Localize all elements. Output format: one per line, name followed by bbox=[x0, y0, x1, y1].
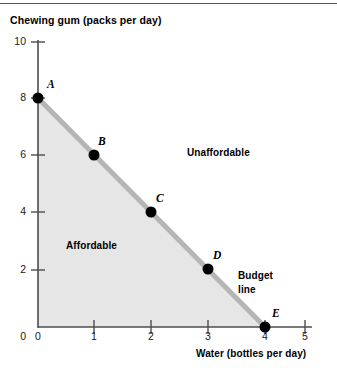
y-tick-label-10: 10 bbox=[8, 35, 26, 47]
point-label-e: E bbox=[272, 307, 280, 319]
x-tick-label-1: 1 bbox=[86, 330, 102, 342]
data-point-c bbox=[146, 207, 157, 218]
x-tick-label-0: 0 bbox=[30, 330, 46, 342]
point-label-d: D bbox=[213, 249, 221, 261]
budget-line-figure: Chewing gum (packs per day) 10 8 6 4 2 0 bbox=[0, 0, 337, 378]
data-point-d bbox=[203, 264, 214, 275]
annotation-budget-word: Budget bbox=[238, 269, 273, 282]
x-tick-label-3: 3 bbox=[200, 330, 216, 342]
y-tick-label-6: 6 bbox=[8, 148, 26, 160]
y-tick-label-4: 4 bbox=[8, 205, 26, 217]
data-point-b bbox=[89, 150, 100, 161]
x-axis-title: Water (bottles per day) bbox=[196, 348, 306, 359]
y-tick-label-0: 0 bbox=[8, 330, 26, 342]
y-tick-label-2: 2 bbox=[8, 263, 26, 275]
point-label-c: C bbox=[156, 192, 164, 204]
x-tick-label-4: 4 bbox=[257, 330, 273, 342]
x-tick-label-2: 2 bbox=[143, 330, 159, 342]
annotation-line-word: line bbox=[238, 283, 256, 296]
y-tick-label-8: 8 bbox=[8, 91, 26, 103]
region-label-affordable: Affordable bbox=[66, 240, 117, 251]
region-label-unaffordable: Unaffordable bbox=[187, 147, 250, 158]
point-label-a: A bbox=[47, 78, 55, 90]
plot-area bbox=[0, 0, 337, 378]
x-tick-label-5: 5 bbox=[297, 330, 313, 342]
data-point-a bbox=[33, 93, 44, 104]
point-label-b: B bbox=[98, 135, 106, 147]
